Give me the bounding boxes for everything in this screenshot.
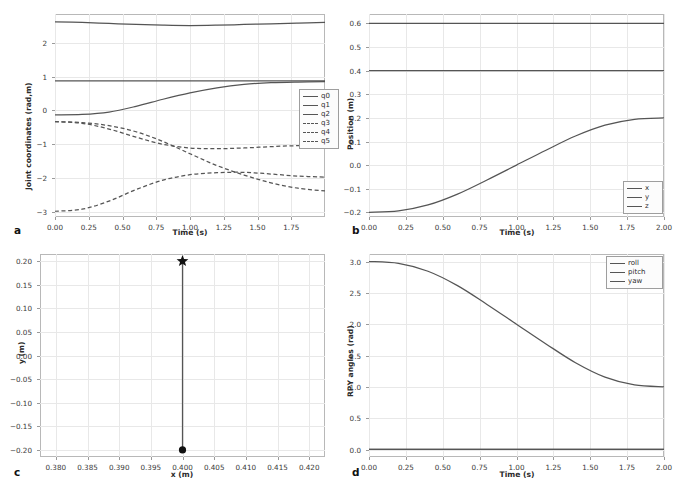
panel-c-xtick-mark [278,457,279,460]
panel-d-legend-line-icon [610,272,625,273]
panel-c-xtick-mark [56,457,57,460]
panel-b-ytick-label: 0.4 [305,66,361,75]
panel-d-xtick-label: 1.75 [619,463,635,472]
panel-b-xtick-mark [627,217,628,220]
panel-c-xtick-mark [119,457,120,460]
panel-b-xtick-mark [590,217,591,220]
panel-c-ytick-label: 0.05 [0,327,32,336]
panel-d-letter: d [352,466,360,478]
panel-b-legend-label: x [645,184,649,193]
panel-b-legend-line-icon [627,188,642,189]
panel-d-legend-item[interactable]: yaw [610,277,659,286]
panel-d-xtick-label: 1.25 [545,463,561,472]
panel-d-xtick-mark [590,457,591,460]
panel-b-legend-line-icon [627,206,642,207]
panel-d-xtick-label: 0.00 [361,463,377,472]
panel-d-xtick-mark [480,457,481,460]
panel-b-series-y [369,118,664,212]
panel-d-xtick-mark [443,457,444,460]
panel-c: 0.200.150.100.050.00−0.05−0.10−0.15−0.20… [0,242,340,484]
panel-c-xtick-label: 0.385 [77,463,98,472]
panel-b-data-layer [369,14,664,217]
panel-d-ytick-label: 2.5 [305,288,361,297]
panel-d-xtick-mark [369,457,370,460]
panel-c-ytick-label: 0.15 [0,280,32,289]
panel-a-xtick-label: 0.75 [148,223,164,232]
panel-d-xtick-mark [664,457,665,460]
panel-c-xtick-label: 0.415 [267,463,288,472]
panel-d-ytick-label: 3.0 [305,257,361,266]
panel-b-xtick-label: 2.00 [656,223,672,232]
panel-b-xtick-label: 0.50 [435,223,451,232]
panel-b-xtick-mark [406,217,407,220]
panel-d-xtick-mark [627,457,628,460]
panel-a-ytick-label: 2 [0,38,47,47]
panel-b-xtick-label: 1.25 [545,223,561,232]
panel-a-xtick-label: 1.75 [283,223,299,232]
panel-c-ytick-label: −0.10 [0,398,32,407]
panel-a-xtick-mark [190,217,191,220]
panel-d-xtick-mark [553,457,554,460]
panel-b-legend-item[interactable]: x [627,184,659,193]
panel-b-xtick-label: 0.75 [472,223,488,232]
panel-d-legend-label: pitch [628,268,645,277]
panel-d-xtick-label: 0.25 [398,463,414,472]
panel-b-xtick-mark [553,217,554,220]
panel-a-xtick-mark [258,217,259,220]
panel-d-ylabel: RPY angles (rad) [346,325,355,397]
panel-a-series-q4 [55,122,325,191]
panel-c-marker-start-circle-icon [179,446,186,453]
panel-c-xtick-label: 0.420 [299,463,320,472]
panel-c-xtick-mark [309,457,310,460]
panel-c-xtick-label: 0.390 [109,463,130,472]
panel-a-xtick-mark [89,217,90,220]
panel-c-xtick-mark [88,457,89,460]
panel-d-xtick-label: 2.00 [656,463,672,472]
panel-d-xtick-label: 0.50 [435,463,451,472]
panel-a-legend-item[interactable]: q1 [303,101,335,110]
panel-a-ylabel: Joint coordinates (rad,m) [24,82,33,190]
panel-d-legend-item[interactable]: pitch [610,268,659,277]
panel-d-legend-label: roll [628,259,639,268]
panel-a-legend-item[interactable]: q4 [303,128,335,137]
panel-c-plot-area: 0.200.150.100.050.00−0.05−0.10−0.15−0.20… [40,254,325,457]
panel-a-series-q5 [55,172,325,211]
panel-b-gridline-v [664,14,665,217]
panel-c-ytick-label: −0.15 [0,422,32,431]
panel-b-ytick-label: −0.2 [305,208,361,217]
panel-c-xtick-label: 0.380 [46,463,67,472]
panel-a-series-q0 [55,82,325,115]
panel-a-xtick-label: 0.00 [47,223,63,232]
panel-c-xlabel: x (m) [171,470,193,479]
panel-b-legend-item[interactable]: y [627,193,659,202]
panel-b-legend: xyz [623,181,663,214]
panel-c-ylabel: y (m) [17,342,26,364]
panel-a-xtick-mark [123,217,124,220]
panel-b-plot-area: 0.60.50.40.30.20.10.0−0.1−0.20.000.250.5… [369,14,664,217]
panel-c-xtick-mark [183,457,184,460]
panel-b-ytick-label: 0.6 [305,19,361,28]
panel-a-xtick-label: 1.50 [249,223,265,232]
panel-b-xtick-label: 1.50 [582,223,598,232]
panel-a-ytick-label: 1 [0,72,47,81]
panel-b-ytick-label: 0.5 [305,43,361,52]
panel-a: 210−1−2−30.000.250.500.751.001.251.501.7… [0,0,340,242]
figure-canvas: 210−1−2−30.000.250.500.751.001.251.501.7… [0,0,681,484]
panel-c-letter: c [14,466,20,478]
panel-d-legend: rollpitchyaw [606,256,663,289]
panel-b-xtick-label: 1.75 [619,223,635,232]
panel-b-legend-item[interactable]: z [627,202,659,211]
panel-a-xlabel: Time (s) [173,228,208,237]
panel-c-ytick-label: −0.20 [0,445,32,454]
panel-b: 0.60.50.40.30.20.10.0−0.1−0.20.000.250.5… [341,0,681,242]
panel-a-plot-area: 210−1−2−30.000.250.500.751.001.251.501.7… [55,14,325,217]
panel-a-series-q3 [55,122,325,149]
panel-c-xtick-label: 0.395 [141,463,162,472]
panel-d-legend-label: yaw [628,277,642,286]
panel-d-xtick-label: 0.75 [472,463,488,472]
panel-a-xtick-mark [291,217,292,220]
panel-b-ytick-label: 0.0 [305,161,361,170]
panel-d-legend-item[interactable]: roll [610,259,659,268]
panel-c-data-layer [40,254,325,457]
panel-a-letter: a [14,224,21,236]
